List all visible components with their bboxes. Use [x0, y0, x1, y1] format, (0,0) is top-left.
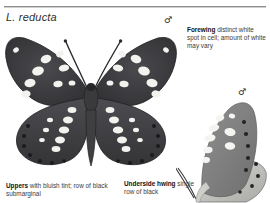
male-symbol-icon-underside: ♂ — [238, 88, 246, 97]
field-guide-page: L. reducta ♂ ♂ — [0, 0, 270, 203]
page-title: L. reducta — [6, 11, 57, 23]
header-rule — [4, 6, 266, 8]
caption-uppers: Uppers with bluish tint; row of black su… — [6, 182, 122, 198]
upperside-specimen-art — [2, 28, 178, 174]
caption-underside: Underside hwing single row of black — [124, 180, 200, 196]
caption-underside-lead: Underside hwing — [124, 180, 175, 187]
right-hindwing — [94, 98, 166, 165]
caption-uppers-lead: Uppers — [6, 182, 28, 189]
left-hindwing — [16, 98, 88, 165]
upperside-specimen-figure — [2, 28, 178, 174]
caption-forewing: Forewing distinct white spot in cell; am… — [187, 26, 267, 50]
abdomen — [86, 110, 96, 166]
male-symbol-icon-upperside: ♂ — [164, 16, 172, 25]
caption-forewing-lead: Forewing — [187, 26, 215, 33]
head — [87, 83, 95, 91]
